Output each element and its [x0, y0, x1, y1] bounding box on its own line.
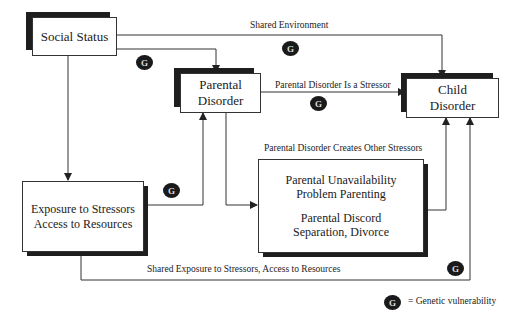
child-disorder-line2: Disorder [430, 98, 476, 114]
edge-label-parental-is-stressor: Parental Disorder Is a Stressor [275, 80, 391, 90]
exposure-box: Exposure to Stressors Access to Resource… [22, 181, 144, 252]
stressor-line4: Separation, Divorce [293, 225, 389, 239]
parental-disorder-box: Parental Disorder [180, 73, 261, 113]
genetic-badge-icon: G [163, 183, 180, 198]
child-disorder-line1: Child [438, 82, 467, 98]
exposure-line2: Access to Resources [34, 217, 133, 231]
parental-disorder-line1: Parental [199, 77, 242, 93]
child-disorder-box: Child Disorder [406, 78, 499, 118]
exposure-line1: Exposure to Stressors [31, 202, 135, 216]
stressor-line1: Parental Unavailability [286, 173, 397, 187]
edge-label-creates-stressors: Parental Disorder Creates Other Stressor… [264, 143, 422, 153]
legend-text: = Genetic vulnerability [408, 296, 496, 306]
stressor-line3: Parental Discord [301, 211, 381, 225]
genetic-badge-icon: G [447, 261, 464, 276]
other-stressors-box: Parental Unavailability Problem Parentin… [258, 159, 424, 253]
stressor-line2: Problem Parenting [296, 187, 386, 201]
edge-label-shared-exposure: Shared Exposure to Stressors, Access to … [147, 264, 340, 274]
edge-label-shared-environment: Shared Environment [250, 20, 328, 30]
social-status-box: Social Status [32, 17, 117, 56]
genetic-badge-icon: G [136, 55, 153, 70]
genetic-badge-icon: G [282, 41, 299, 56]
legend-genetic-icon: G [384, 295, 401, 310]
genetic-badge-icon: G [310, 96, 327, 111]
parental-disorder-line2: Disorder [198, 93, 244, 109]
diagram-canvas: Social Status Parental Disorder Child Di… [0, 0, 521, 319]
social-status-label: Social Status [41, 29, 109, 45]
